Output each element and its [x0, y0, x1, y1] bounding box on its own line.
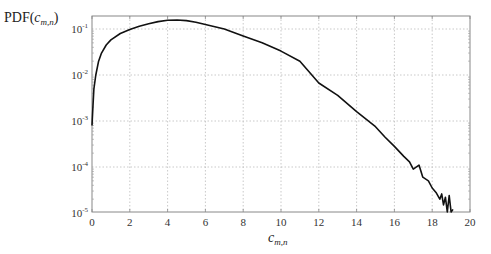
y-tick-labels: 10-510-410-310-210-1	[71, 22, 88, 219]
pdf-chart: 02468101214161820 10-510-410-310-210-1	[0, 0, 491, 254]
x-tick-label: 4	[165, 216, 171, 228]
y-axis-label-sub: m,n	[41, 17, 54, 27]
x-tick-label: 14	[351, 216, 363, 228]
x-tick-label: 2	[127, 216, 133, 228]
y-axis-label-suffix: )	[54, 10, 59, 25]
y-tick-label: 10-5	[71, 206, 88, 219]
y-tick-label: 10-3	[71, 114, 88, 127]
x-axis-label-sub: m,n	[274, 237, 287, 247]
x-tick-label: 18	[427, 216, 439, 228]
x-tick-label: 20	[465, 216, 477, 228]
x-tick-label: 16	[389, 216, 401, 228]
y-tick-label: 10-4	[71, 160, 88, 173]
x-tick-label: 6	[203, 216, 209, 228]
y-axis-label-prefix: PDF(	[4, 10, 34, 25]
y-tick-label: 10-2	[71, 68, 88, 81]
y-tick-label: 10-1	[71, 22, 88, 35]
x-axis-label: cm,n	[268, 230, 287, 247]
x-tick-labels: 02468101214161820	[89, 216, 476, 228]
pdf-curve	[92, 20, 453, 212]
x-tick-label: 0	[89, 216, 95, 228]
x-tick-label: 10	[276, 216, 288, 228]
x-tick-label: 8	[240, 216, 246, 228]
y-axis-label: PDF(cm,n)	[4, 10, 59, 27]
grid-lines	[92, 16, 470, 212]
x-tick-label: 12	[313, 216, 324, 228]
